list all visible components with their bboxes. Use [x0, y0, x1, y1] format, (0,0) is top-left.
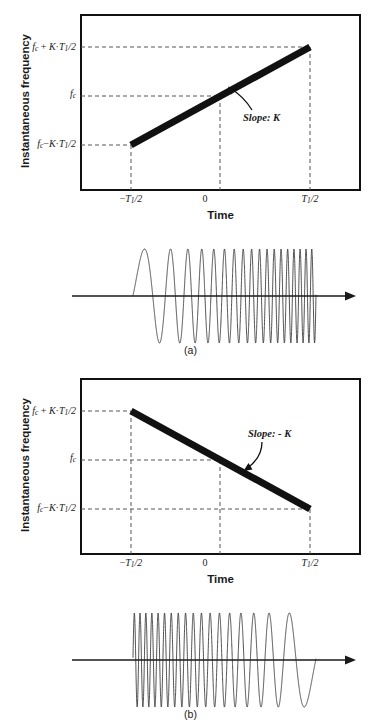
subfigure-caption: (b) [0, 708, 381, 720]
figure-panel-b: Instantaneous frequency Time fc + K·T1/2… [0, 364, 381, 728]
subfigure-caption: (a) [0, 344, 381, 356]
waveform-axis-arrowhead [345, 656, 356, 665]
slope-annotation: Slope: - K [248, 428, 291, 439]
x-axis-title: Time [81, 209, 360, 221]
x-tick-label-negative: −T1/2 [101, 193, 161, 205]
panel-a-graphic [0, 0, 381, 364]
y-tick-label-mid: fc [70, 452, 76, 464]
plot-frame [81, 15, 360, 190]
y-tick-label-low: fc−K·T1/2 [37, 502, 76, 514]
panel-b-graphic [0, 364, 381, 728]
x-tick-label-zero: 0 [190, 557, 220, 568]
waveform-axis-arrowhead [345, 292, 356, 301]
x-tick-label-positive: T1/2 [285, 193, 335, 205]
y-tick-label-low: fc−K·T1/2 [37, 138, 76, 150]
slope-annotation: Slope: K [243, 112, 280, 123]
y-tick-label-high: fc + K·T1/2 [32, 405, 76, 417]
x-tick-label-negative: −T1/2 [101, 557, 161, 569]
x-axis-title: Time [81, 573, 360, 585]
plot-frame [81, 379, 360, 554]
frequency-slope-line [131, 411, 310, 509]
x-tick-label-positive: T1/2 [285, 557, 335, 569]
x-tick-label-zero: 0 [190, 193, 220, 204]
frequency-slope-line [131, 47, 310, 145]
y-axis-title: Instantaneous frequency [19, 6, 31, 196]
figure-panel-a: Instantaneous frequency Time fc + K·T1/2… [0, 0, 381, 364]
y-tick-label-mid: fc [70, 88, 76, 100]
y-axis-title: Instantaneous frequency [19, 370, 31, 560]
y-tick-label-high: fc + K·T1/2 [32, 41, 76, 53]
